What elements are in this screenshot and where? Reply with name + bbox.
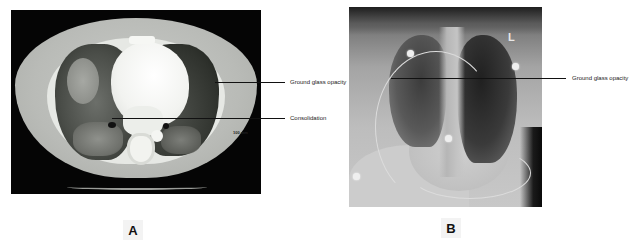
- descending-aorta: [151, 130, 163, 142]
- sternum: [129, 36, 155, 44]
- panel-label-a: A: [123, 220, 143, 240]
- ct-scan-image: 100 mm: [11, 10, 261, 194]
- left-bronchus: [163, 123, 169, 129]
- leader-line-ggo-a: [215, 82, 285, 83]
- annotation-consolidation: Consolidation: [290, 115, 326, 122]
- ecg-electrode: [353, 173, 360, 180]
- scale-label: 100 mm: [233, 130, 248, 135]
- ecg-lead-wire: [409, 147, 531, 199]
- ecg-electrode: [512, 63, 519, 70]
- panel-label-b: B: [441, 218, 461, 238]
- annotation-ground-glass-opacity-b: Ground glass opacity: [572, 75, 628, 82]
- annotation-ground-glass-opacity-a: Ground glass opacity: [290, 79, 346, 86]
- ecg-electrode: [445, 135, 452, 142]
- right-consolidation-region: [73, 122, 123, 156]
- side-marker-left: L: [508, 31, 515, 43]
- chest-xray-image: L: [349, 7, 542, 207]
- left-consolidation-region: [161, 126, 201, 154]
- vertebra: [130, 136, 152, 162]
- leader-line-ggo-b: [391, 78, 566, 79]
- leader-line-consolidation: [112, 118, 285, 119]
- right-bronchus: [108, 122, 116, 128]
- scanner-table: [67, 184, 207, 190]
- right-lung-opacity: [67, 58, 99, 104]
- ecg-electrode: [407, 50, 414, 57]
